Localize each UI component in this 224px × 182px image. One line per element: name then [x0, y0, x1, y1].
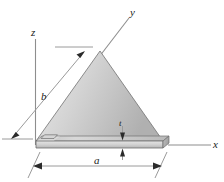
dimension-b-arrow-upper	[77, 51, 86, 58]
figure-container: z y x	[0, 0, 224, 182]
y-axis-label: y	[129, 6, 135, 18]
z-axis-label: z	[30, 26, 36, 38]
dimension-t-arrow-lower	[120, 149, 125, 157]
z-axis: z	[30, 26, 36, 145]
plate-front-face	[36, 141, 163, 148]
x-axis-label: x	[212, 138, 218, 150]
dimension-b-arrow-lower	[11, 132, 20, 139]
plate-face	[36, 51, 163, 141]
x-axis: x	[168, 138, 218, 150]
dimension-a-arrow-right	[153, 163, 162, 170]
dimension-b-label: b	[41, 90, 47, 102]
triangular-plate	[36, 51, 169, 148]
dimension-a: a	[28, 152, 167, 178]
dimension-a-label: a	[94, 154, 100, 166]
triangular-plate-diagram: z y x	[0, 0, 224, 182]
